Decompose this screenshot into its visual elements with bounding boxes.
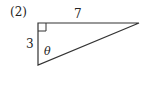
triangle-figure: (2) 7 3 θ xyxy=(0,0,157,99)
angle-theta-label: θ xyxy=(44,46,51,57)
right-triangle xyxy=(38,23,139,65)
left-side-label: 3 xyxy=(26,38,34,50)
problem-label: (2) xyxy=(10,6,27,18)
top-side-label: 7 xyxy=(74,8,82,20)
right-angle-marker xyxy=(38,23,46,31)
